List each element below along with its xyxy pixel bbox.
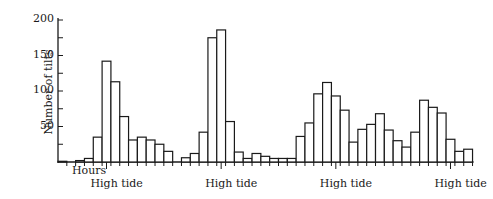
- histogram-bar: [367, 124, 376, 162]
- high-tide-label: High tide: [320, 177, 372, 190]
- histogram-bar: [146, 140, 155, 162]
- histogram-bar: [243, 158, 252, 162]
- y-tick-label: 200: [33, 12, 54, 25]
- histogram-bar: [58, 161, 67, 162]
- histogram-bar: [226, 122, 235, 162]
- histogram-bar: [376, 114, 385, 162]
- histogram-bar: [349, 142, 358, 162]
- histogram-bar: [208, 38, 217, 162]
- x-axis-label: Hours: [72, 164, 106, 177]
- histogram-bar: [137, 137, 146, 162]
- histogram-bar: [340, 110, 349, 162]
- histogram-bar: [314, 94, 323, 162]
- histogram-bar: [181, 158, 190, 162]
- high-tide-label: High tide: [434, 177, 486, 190]
- histogram-bar: [217, 30, 226, 162]
- histogram-bar: [155, 144, 164, 162]
- histogram-bar: [446, 139, 455, 162]
- histogram-bar: [437, 113, 446, 162]
- histogram-bar: [190, 153, 199, 162]
- histogram-bar: [129, 140, 138, 162]
- histogram-bar: [402, 147, 411, 162]
- high-tide-label: High tide: [91, 177, 143, 190]
- histogram-bar: [270, 158, 279, 162]
- histogram-bar: [111, 82, 120, 162]
- histogram-bar: [120, 117, 129, 162]
- histogram-bar: [305, 123, 314, 162]
- histogram-bar: [287, 158, 296, 162]
- y-tick-label: 100: [33, 83, 54, 96]
- histogram-bar: [102, 61, 111, 162]
- y-tick-label: 150: [33, 48, 54, 61]
- high-tide-label: High tide: [205, 177, 257, 190]
- histogram-bar: [455, 151, 464, 162]
- histogram-bar: [261, 156, 270, 162]
- histogram-bar: [84, 158, 93, 162]
- histogram-bar: [296, 136, 305, 162]
- histogram-bar: [252, 153, 261, 162]
- y-tick-label: 50: [40, 119, 54, 132]
- histogram-bar: [428, 107, 437, 162]
- histogram-bar: [393, 141, 402, 162]
- histogram-bar: [76, 161, 85, 162]
- histogram-bar: [323, 82, 332, 162]
- histogram-bar: [464, 149, 473, 162]
- histogram-bar: [234, 152, 243, 162]
- histogram-bar: [199, 132, 208, 162]
- histogram-bar: [384, 130, 393, 162]
- histogram-bar: [93, 137, 102, 162]
- histogram-bar: [164, 151, 173, 162]
- histogram-bar: [279, 158, 288, 162]
- histogram-bar: [331, 96, 340, 162]
- histogram-bar: [358, 129, 367, 162]
- histogram-bar: [420, 100, 429, 162]
- histogram-bar: [411, 132, 420, 162]
